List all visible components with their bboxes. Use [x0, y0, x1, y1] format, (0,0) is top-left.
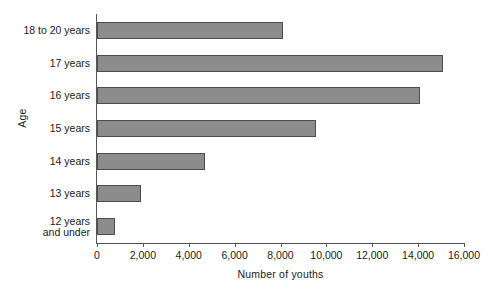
bar [97, 153, 205, 170]
bar [97, 87, 420, 104]
bar [97, 22, 283, 39]
bar-row [97, 120, 316, 137]
category-label: 14 years [0, 156, 94, 167]
x-tick-mark [464, 243, 465, 247]
x-tick-mark [235, 243, 236, 247]
bar-row [97, 218, 115, 235]
category-label: 18 to 20 years [0, 25, 94, 36]
x-tick-mark [97, 243, 98, 247]
x-tick-label: 16,000 [434, 249, 494, 261]
category-label: 13 years [0, 188, 94, 199]
bar [97, 120, 316, 137]
x-tick-mark [281, 243, 282, 247]
x-tick-mark [418, 243, 419, 247]
bar-row [97, 22, 283, 39]
x-tick-mark [372, 243, 373, 247]
bar [97, 218, 115, 235]
bar [97, 185, 141, 202]
bar-row [97, 153, 205, 170]
category-label: 16 years [0, 90, 94, 101]
bar-row [97, 55, 443, 72]
bar-chart: Age 18 to 20 years17 years16 years15 yea… [0, 0, 500, 300]
category-label: 12 years and under [0, 216, 94, 238]
x-tick-mark [189, 243, 190, 247]
x-tick-mark [326, 243, 327, 247]
category-label: 17 years [0, 58, 94, 69]
bar [97, 55, 443, 72]
x-axis-title: Number of youths [97, 268, 464, 280]
x-tick-mark [143, 243, 144, 247]
bar-row [97, 185, 141, 202]
bar-row [97, 87, 420, 104]
category-label: 15 years [0, 123, 94, 134]
